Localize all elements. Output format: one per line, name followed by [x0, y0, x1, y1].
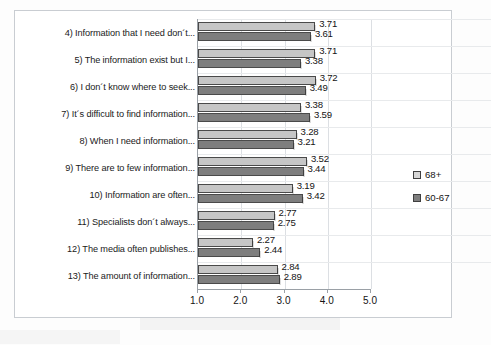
plot-wrapper: 3.713.613.713.383.723.493.383.593.283.21…	[197, 19, 370, 289]
category-label: 11) Specialists don´t always...	[77, 217, 195, 227]
bar-value-label: 2.44	[264, 244, 282, 255]
bar-60-67	[198, 113, 310, 122]
bar-group: 3.723.49	[198, 73, 371, 100]
bar-60-67	[198, 194, 303, 203]
bar-value-label: 3.21	[298, 136, 316, 147]
legend-label: 60-67	[425, 192, 450, 203]
category-label: 9) There are to few information...	[65, 163, 195, 173]
bar-68-	[198, 22, 315, 31]
category-label-row: 6) I don´t know where to seek...	[21, 73, 197, 100]
bar-group: 2.842.89	[198, 262, 371, 289]
bar-group: 3.713.61	[198, 19, 371, 46]
bar-value-label: 3.61	[315, 28, 333, 39]
bar-68-	[198, 238, 253, 247]
bar-68-	[198, 157, 307, 166]
bar-group: 2.272.44	[198, 235, 371, 262]
category-label: 5) The information exist but I...	[74, 55, 195, 65]
bar-value-label: 3.59	[314, 109, 332, 120]
chart-frame: 4) Information that I need don´t...5) Th…	[14, 10, 452, 318]
bar-value-label: 3.42	[307, 190, 325, 201]
bar-60-67	[198, 221, 274, 230]
bar-68-	[198, 184, 293, 193]
category-label-row: 8) When I need information...	[21, 127, 197, 154]
legend-item[interactable]: 60-67	[413, 192, 450, 203]
bar-60-67	[198, 32, 311, 41]
legend-swatch	[413, 171, 421, 179]
x-axis-tick-label: 5.0	[363, 295, 377, 306]
x-axis-tick	[197, 289, 198, 293]
bar-60-67	[198, 59, 301, 68]
bar-68-	[198, 265, 278, 274]
bar-68-	[198, 130, 297, 139]
chart-legend: 68+60-67	[413, 169, 450, 215]
category-label: 7) It´s difficult to find information...	[61, 109, 195, 119]
x-axis	[197, 289, 370, 290]
category-label-row: 5) The information exist but I...	[21, 46, 197, 73]
category-label-row: 10) Information are often...	[21, 181, 197, 208]
category-label: 6) I don´t know where to seek...	[70, 82, 195, 92]
scan-artifact	[0, 330, 120, 344]
category-label-row: 4) Information that I need don´t...	[21, 19, 197, 46]
category-label-row: 7) It´s difficult to find information...	[21, 100, 197, 127]
bar-value-label: 3.44	[308, 163, 326, 174]
bar-value-label: 3.38	[305, 55, 323, 66]
bar-60-67	[198, 275, 280, 284]
category-label: 8) When I need information...	[79, 136, 195, 146]
bar-value-label: 3.49	[310, 82, 328, 93]
bar-68-	[198, 76, 316, 85]
x-axis-tick-label: 4.0	[320, 295, 334, 306]
bar-group: 2.772.75	[198, 208, 371, 235]
legend-swatch	[413, 194, 421, 202]
x-axis-tick	[240, 289, 241, 293]
x-axis-tick-label: 3.0	[277, 295, 291, 306]
x-axis-tick-label: 1.0	[190, 295, 204, 306]
x-axis-tick	[327, 289, 328, 293]
bar-group: 3.383.59	[198, 100, 371, 127]
bar-68-	[198, 103, 301, 112]
bar-group: 3.283.21	[198, 127, 371, 154]
category-label-row: 12) The media often publishes...	[21, 235, 197, 262]
category-label: 12) The media often publishes...	[67, 244, 195, 254]
bar-68-	[198, 211, 275, 220]
category-label-column: 4) Information that I need don´t...5) Th…	[21, 19, 197, 289]
bar-value-label: 2.75	[278, 217, 296, 228]
category-label-row: 13) The amount of information...	[21, 262, 197, 289]
x-axis-tick-label: 2.0	[233, 295, 247, 306]
bar-60-67	[198, 86, 306, 95]
plot-area: 3.713.613.713.383.723.493.383.593.283.21…	[197, 19, 371, 289]
bar-group: 3.713.38	[198, 46, 371, 73]
bar-68-	[198, 49, 315, 58]
x-axis-tick	[284, 289, 285, 293]
bar-60-67	[198, 140, 294, 149]
bar-60-67	[198, 167, 304, 176]
bar-group: 3.523.44	[198, 154, 371, 181]
legend-item[interactable]: 68+	[413, 169, 450, 180]
category-label: 13) The amount of information...	[68, 271, 195, 281]
legend-label: 68+	[425, 169, 441, 180]
category-label: 10) Information are often...	[90, 190, 195, 200]
category-label: 4) Information that I need don´t...	[65, 28, 195, 38]
category-label-row: 9) There are to few information...	[21, 154, 197, 181]
x-axis-tick	[370, 289, 371, 293]
bar-60-67	[198, 248, 260, 257]
bar-group: 3.193.42	[198, 181, 371, 208]
bar-value-label: 2.89	[284, 271, 302, 282]
category-label-row: 11) Specialists don´t always...	[21, 208, 197, 235]
